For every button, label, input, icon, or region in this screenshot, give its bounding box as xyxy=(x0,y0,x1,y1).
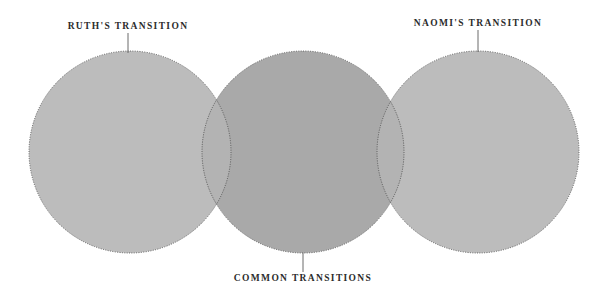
venn-diagram: RUTH'S TRANSITION NAOMI'S TRANSITION COM… xyxy=(0,0,606,303)
label-ruth-transition: RUTH'S TRANSITION xyxy=(68,22,189,32)
label-naomi-transition: NAOMI'S TRANSITION xyxy=(414,19,542,29)
venn-canvas xyxy=(0,0,606,303)
naomi-circle-fill xyxy=(377,51,579,253)
common-circle-fill xyxy=(202,51,404,253)
label-common-transitions: COMMON TRANSITIONS xyxy=(234,274,372,284)
ruth-circle-fill xyxy=(29,51,231,253)
